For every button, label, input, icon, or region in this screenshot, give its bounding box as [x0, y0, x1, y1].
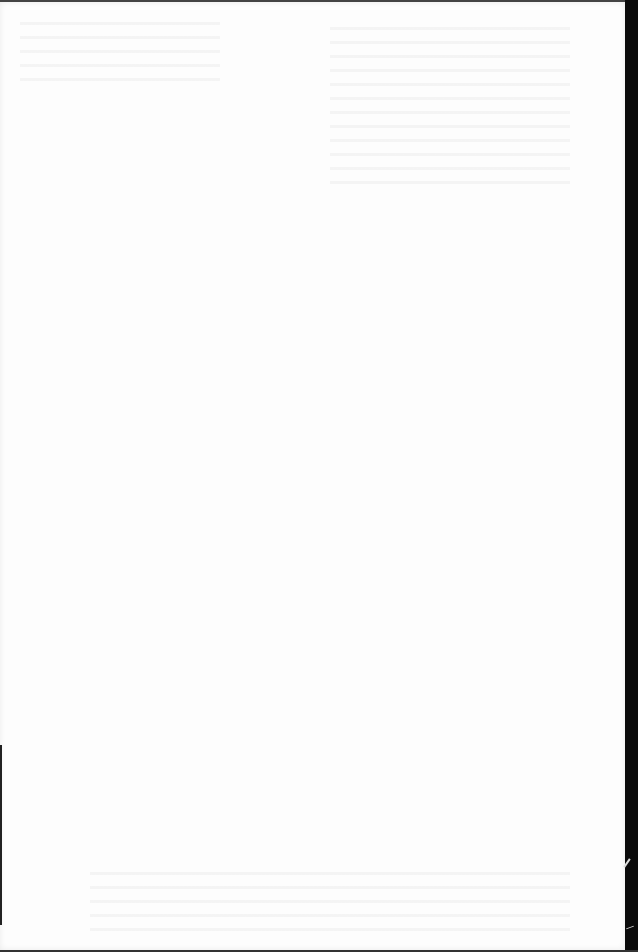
bleed-through-left-column: [20, 22, 220, 82]
bleed-through-bottom: [90, 872, 570, 932]
scan-right-edge: [625, 0, 638, 952]
blank-page: [0, 2, 625, 950]
bleed-through-right-column: [330, 27, 570, 187]
scan-left-edge-mark: [0, 745, 2, 925]
